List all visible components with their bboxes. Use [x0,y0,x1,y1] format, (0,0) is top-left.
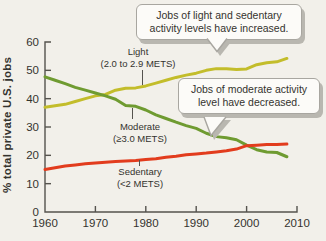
x-tick-label: 1980 [133,217,159,229]
leader-line-sedentary [139,160,140,166]
series-label-moderate-note: (≥3.0 METS) [85,133,195,145]
series-label-sedentary-name: Sedentary [118,166,161,177]
y-tick-label: 20 [26,149,39,161]
leader-line-moderate [132,108,133,119]
x-tick-label: 1990 [183,217,209,229]
x-tick-label: 1970 [83,217,109,229]
x-tick-label: 2000 [234,217,260,229]
figure-background: % total private U.S. jobs 01020304050601… [0,0,326,241]
y-tick-label: 40 [26,93,39,105]
leader-line-light [142,70,143,85]
y-tick-label: 10 [26,178,39,190]
callout-decrease: Jobs of moderate activity level have dec… [178,78,320,114]
callout-increase: Jobs of light and sedentary activity lev… [136,4,302,40]
x-tick-label: 1960 [32,217,58,229]
y-tick-label: 30 [26,121,39,133]
y-tick-label: 60 [26,36,39,48]
series-label-sedentary: Sedentary (<2 METS) [85,166,195,189]
series-label-light-name: Light [128,46,149,57]
callout-decrease-text: Jobs of moderate activity level have dec… [191,83,307,108]
y-tick-label: 50 [26,64,39,76]
series-label-moderate: Moderate (≥3.0 METS) [85,121,195,144]
callout-increase-text: Jobs of light and sedentary activity lev… [150,9,289,34]
series-label-light: Light (2.0 to 2.9 METS) [83,46,193,69]
x-tick-label: 2010 [284,217,310,229]
series-label-light-note: (2.0 to 2.9 METS) [83,58,193,70]
series-label-moderate-name: Moderate [120,121,160,132]
series-label-sedentary-note: (<2 METS) [85,178,195,190]
